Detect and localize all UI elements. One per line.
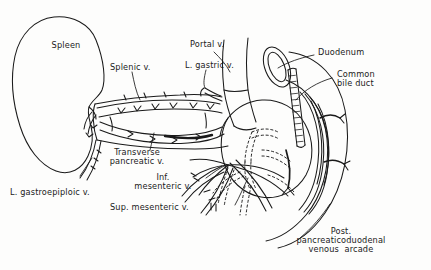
label-duodenum: Duodenum — [318, 48, 364, 58]
label-l-gastric-vein: L. gastric v. — [185, 61, 234, 71]
pancreas-body-outline — [93, 95, 228, 149]
label-common-bile-duct-line2: bile duct — [337, 79, 374, 89]
portal-vein — [223, 38, 257, 130]
label-portal-vein: Portal v. — [190, 40, 224, 50]
label-l-gastroepiploic: L. gastroepiploic v. — [10, 188, 90, 198]
transverse-pancreatic-vein — [100, 113, 224, 143]
leader-duodenum — [278, 55, 314, 68]
hidden-vessels-dotted — [213, 129, 294, 215]
label-sup-mesenteric: Sup. mesenteric v. — [110, 203, 189, 213]
leader-splenic-vein — [132, 72, 140, 100]
label-spleen: Spleen — [36, 41, 96, 51]
figure-canvas: Spleen Splenic v. L. gastric v. Portal v… — [0, 0, 431, 270]
post-pancreaticoduodenal-arcade — [282, 92, 350, 214]
label-inf-mesenteric-line2: mesenteric v. — [128, 182, 198, 192]
label-post-arcade-line3: venous arcade — [286, 245, 396, 255]
leader-l-gastric — [204, 70, 206, 88]
pancreas-head-outline — [220, 100, 312, 198]
label-splenic-vein: Splenic v. — [110, 63, 151, 73]
duodenum-outline — [258, 43, 347, 248]
mesenteric-branch-fan — [190, 159, 288, 211]
label-transverse-pancreatic-line2: pancreatic v. — [98, 157, 176, 167]
